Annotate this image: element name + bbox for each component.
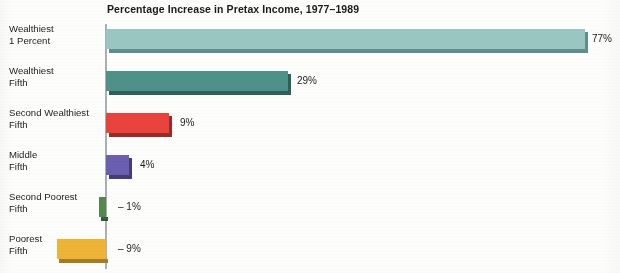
bar-second-wealthiest-fifth[interactable] (106, 113, 169, 133)
chart-title: Percentage Increase in Pretax Income, 19… (107, 3, 359, 15)
bar-value-label: 4% (140, 159, 154, 170)
bar-shadow-right (585, 32, 588, 52)
category-label-line1: Wealthiest (9, 65, 54, 76)
category-label-line1: Second Wealthiest (9, 107, 89, 118)
pretax-income-bar-chart: Percentage Increase in Pretax Income, 19… (0, 0, 620, 273)
plot-area: Wealthiest 1 Percent 77% Wealthiest Fift… (0, 20, 620, 273)
bar-face (106, 71, 288, 91)
bar-face (106, 113, 169, 133)
bar-shadow-bottom (109, 133, 172, 137)
bar-face (99, 197, 106, 217)
bar-shadow-right (129, 158, 132, 178)
category-label-line1: Poorest (9, 233, 42, 244)
category-label: Wealthiest 1 Percent (9, 23, 104, 48)
bar-middle-fifth[interactable] (106, 155, 129, 175)
category-label-line1: Middle (9, 149, 37, 160)
category-label: Middle Fifth (9, 149, 104, 174)
bar-value-label: – 9% (118, 243, 141, 254)
category-label-line2: 1 Percent (9, 35, 104, 47)
bar-shadow-bottom (101, 217, 108, 221)
bar-value-label: 9% (180, 117, 194, 128)
bar-row: Wealthiest Fifth 29% (0, 62, 620, 104)
category-label-line2: Fifth (9, 119, 104, 131)
bar-poorest-fifth[interactable] (57, 239, 106, 259)
bar-shadow-bottom (59, 259, 108, 263)
bar-value-label: – 1% (118, 201, 141, 212)
bar-face (57, 239, 106, 259)
bar-value-label: 29% (297, 75, 317, 86)
bar-shadow-right (169, 116, 172, 136)
category-label-line1: Second Poorest (9, 191, 77, 202)
bar-face (106, 155, 129, 175)
bar-value-label: 77% (592, 33, 612, 44)
category-label-line2: Fifth (9, 77, 104, 89)
category-label: Wealthiest Fifth (9, 65, 104, 90)
bar-row: Second Wealthiest Fifth 9% (0, 104, 620, 146)
bar-shadow-bottom (109, 91, 291, 95)
bar-face (106, 29, 585, 49)
bar-row: Poorest Fifth – 9% (0, 230, 620, 272)
category-label: Second Poorest Fifth (9, 191, 104, 216)
bar-second-poorest-fifth[interactable] (99, 197, 106, 217)
bar-row: Wealthiest 1 Percent 77% (0, 20, 620, 62)
category-label-line2: Fifth (9, 161, 104, 173)
bar-wealthiest-fifth[interactable] (106, 71, 288, 91)
bar-shadow-right (288, 74, 291, 94)
bar-row: Second Poorest Fifth – 1% (0, 188, 620, 230)
category-label-line1: Wealthiest (9, 23, 54, 34)
bar-shadow-bottom (109, 49, 588, 53)
bar-wealthiest-1-percent[interactable] (106, 29, 585, 49)
category-label-line2: Fifth (9, 203, 104, 215)
bar-row: Middle Fifth 4% (0, 146, 620, 188)
category-label: Second Wealthiest Fifth (9, 107, 104, 132)
